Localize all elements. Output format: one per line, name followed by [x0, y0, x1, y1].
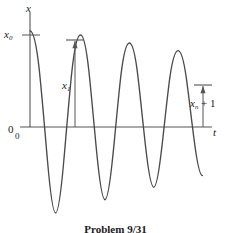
xn1-arrow-head-icon: [200, 86, 205, 93]
damped-oscillation-curve: [30, 31, 202, 213]
y-axis-label: x: [26, 3, 31, 14]
x1-label: x1: [62, 80, 70, 93]
x0-label: x0: [4, 29, 12, 42]
y-axis-origin-label: 0: [8, 124, 14, 135]
x1-label-subscript: 1: [67, 85, 70, 92]
figure-canvas: [0, 0, 231, 233]
x-axis-origin-label: 0: [15, 132, 20, 141]
xn1-label-offset: 1: [210, 97, 216, 109]
damped-oscillation-figure: x t x0 0 0 x1 xn + 1 Problem 9/31: [0, 0, 231, 233]
x0-label-subscript: 0: [9, 34, 12, 41]
x-axis-label: t: [213, 127, 216, 138]
xn1-label-operator: +: [198, 97, 210, 109]
xn1-label: xn + 1: [190, 98, 216, 111]
figure-caption: Problem 9/31: [0, 223, 231, 233]
